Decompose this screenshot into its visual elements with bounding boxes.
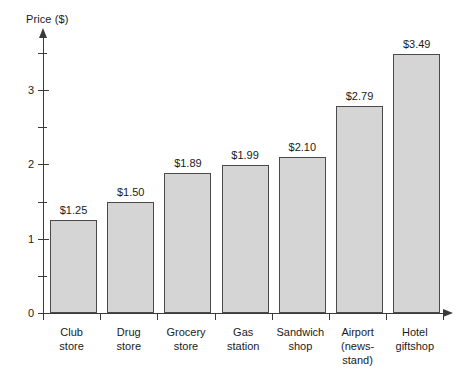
bar [393, 54, 440, 313]
bar-value-label: $1.50 [98, 187, 163, 198]
category-label-line: stand) [323, 353, 392, 367]
bar [222, 165, 269, 313]
bar [279, 157, 326, 313]
y-tick-minor [38, 276, 47, 277]
y-tick-major [38, 239, 49, 240]
y-axis-title: Price ($) [26, 13, 68, 25]
category-label-line: giftshop [380, 339, 449, 353]
bar-value-label: $1.89 [155, 158, 220, 169]
x-tick [272, 313, 273, 320]
y-tick-label: 3 [20, 85, 34, 96]
x-tick [329, 313, 330, 320]
x-axis-line [43, 313, 444, 314]
x-tick [43, 313, 44, 320]
bar [336, 106, 383, 313]
bar [164, 173, 211, 313]
bar-value-label: $2.79 [327, 91, 392, 102]
category-label-line: Hotel [380, 325, 449, 339]
y-tick-major [38, 90, 49, 91]
y-tick-minor [38, 53, 47, 54]
x-axis-arrow-icon [443, 309, 453, 317]
x-tick [215, 313, 216, 320]
y-axis-line [43, 36, 44, 314]
bar-value-label: $3.49 [384, 39, 449, 50]
x-tick [443, 313, 444, 320]
bar [107, 202, 154, 313]
bar-value-label: $1.25 [41, 205, 106, 216]
y-tick-label: 0 [20, 308, 34, 319]
x-tick [157, 313, 158, 320]
y-tick-minor [38, 127, 47, 128]
bar-value-label: $2.10 [270, 142, 335, 153]
bar-chart: Price ($) 0123 $1.25$1.50$1.89$1.99$2.10… [0, 0, 467, 378]
category-label: Hotelgiftshop [380, 325, 449, 353]
y-tick-label: 1 [20, 234, 34, 245]
bar-value-label: $1.99 [213, 150, 278, 161]
x-tick [100, 313, 101, 320]
y-tick-minor [38, 202, 47, 203]
bar [50, 220, 97, 313]
y-tick-label: 2 [20, 159, 34, 170]
x-tick [386, 313, 387, 320]
y-tick-major [38, 164, 49, 165]
